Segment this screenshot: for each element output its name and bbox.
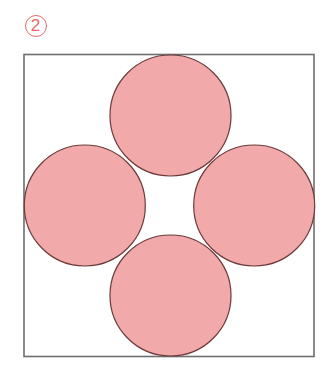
circle-bottom (110, 235, 231, 356)
circle-right (194, 145, 315, 266)
circles-in-square-figure (0, 0, 332, 376)
figure-number-label: 2 (25, 15, 47, 37)
circle-top (110, 55, 231, 176)
figure-number-text: 2 (31, 17, 40, 34)
circle-left (24, 145, 145, 266)
